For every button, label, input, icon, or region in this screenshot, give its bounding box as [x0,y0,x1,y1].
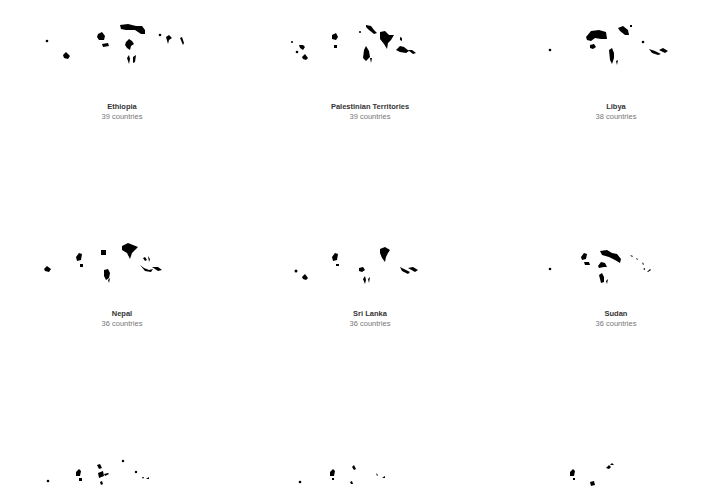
country-name: Nepal [32,309,212,319]
map-cell-ethiopia: Ethiopia 39 countries [12,0,248,207]
map-label: Sri Lanka 36 countries [280,309,460,329]
world-map-nepal [32,227,212,287]
country-name: Sudan [526,309,706,319]
country-count: 36 countries [526,319,706,329]
country-name: Sri Lanka [280,309,460,319]
world-map [526,434,706,490]
map-label: Libya 38 countries [526,102,706,122]
map-label: Palestinian Territories 39 countries [280,102,460,122]
map-label: Sudan 36 countries [526,309,706,329]
map-cell-nepal: Nepal 36 countries [12,207,248,414]
world-map-sri-lanka [280,227,460,287]
country-count: 39 countries [280,112,460,122]
country-name: Palestinian Territories [280,102,460,112]
map-cell-sudan: Sudan 36 countries [506,207,708,414]
country-count: 39 countries [32,112,212,122]
map-cell-libya: Libya 38 countries [506,0,708,207]
map-cell-row3-col2 [260,414,496,490]
country-name: Ethiopia [32,102,212,112]
world-map-palestinian-territories [280,20,460,80]
map-label: Ethiopia 39 countries [32,102,212,122]
map-label: Nepal 36 countries [32,309,212,329]
world-map-libya [526,20,706,80]
country-count: 36 countries [280,319,460,329]
map-cell-palestinian-territories: Palestinian Territories 39 countries [260,0,496,207]
world-map [280,434,460,490]
country-count: 38 countries [526,112,706,122]
map-cell-row3-col3 [506,414,708,490]
country-count: 36 countries [32,319,212,329]
world-map-ethiopia [32,20,212,80]
country-name: Libya [526,102,706,112]
map-cell-sri-lanka: Sri Lanka 36 countries [260,207,496,414]
world-map-sudan [526,227,706,287]
map-cell-row3-col1 [12,414,248,490]
world-map [32,434,212,490]
